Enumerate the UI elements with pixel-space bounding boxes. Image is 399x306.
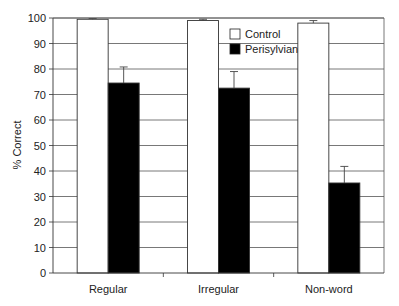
y-tick-label: 10 [34, 242, 46, 254]
bar-chart: 0102030405060708090100RegularIrregularNo… [0, 0, 399, 306]
legend: Control Perisylvian [230, 28, 298, 55]
bar-perisylvian-irregular [219, 88, 250, 273]
bar-perisylvian-non-word [329, 183, 360, 273]
x-tick-label: Irregular [198, 283, 239, 295]
x-tick-label: Regular [89, 283, 128, 295]
bar-control-non-word [298, 23, 329, 273]
bar-perisylvian-regular [108, 83, 139, 273]
y-tick-label: 70 [34, 89, 46, 101]
bar-control-irregular [188, 21, 219, 273]
y-tick-label: 80 [34, 63, 46, 75]
y-tick-label: 40 [34, 165, 46, 177]
y-tick-label: 0 [40, 267, 46, 279]
legend-label-control: Control [245, 28, 280, 40]
y-tick-label: 50 [34, 140, 46, 152]
bars [77, 19, 360, 273]
y-axis-label: % Correct [11, 121, 23, 170]
y-tick-label: 90 [34, 38, 46, 50]
y-tick-label: 30 [34, 191, 46, 203]
legend-label-perisylvian: Perisylvian [245, 43, 298, 55]
legend-swatch-perisylvian [230, 44, 240, 54]
y-tick-label: 100 [28, 12, 46, 24]
y-tick-label: 20 [34, 216, 46, 228]
legend-swatch-control [230, 29, 240, 39]
y-tick-label: 60 [34, 114, 46, 126]
bar-control-regular [77, 19, 108, 273]
x-tick-label: Non-word [305, 283, 353, 295]
